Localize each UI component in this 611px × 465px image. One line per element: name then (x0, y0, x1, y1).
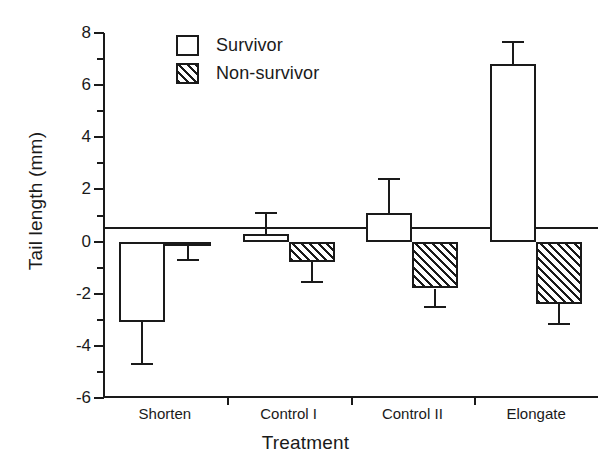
error-bar-stem (265, 213, 267, 234)
bar-non-survivor-elongate (536, 242, 582, 305)
legend-label-non-survivor: Non-survivor (216, 63, 319, 84)
error-bar-cap (548, 323, 570, 325)
y-tick-label: -2 (45, 285, 91, 302)
bar-survivor-control-i (243, 234, 289, 242)
error-bar-cap (177, 259, 199, 261)
y-tick-major (94, 397, 104, 399)
y-tick-major (94, 241, 104, 243)
y-tick-label: -4 (45, 337, 91, 354)
error-bar-stem (388, 179, 390, 213)
y-tick-label: 4 (45, 128, 91, 145)
y-tick-major (94, 84, 104, 86)
bar-non-survivor-control-ii (412, 242, 458, 289)
y-tick-minor (97, 215, 104, 217)
y-tick-minor (97, 162, 104, 164)
bar-survivor-shorten (119, 242, 165, 323)
y-tick-label: 6 (45, 76, 91, 93)
error-bar-stem (141, 322, 143, 364)
error-bar-stem (187, 243, 189, 260)
y-tick-label: -6 (45, 389, 91, 406)
error-bar-stem (311, 262, 313, 282)
legend-item-non-survivor: Non-survivor (176, 59, 319, 87)
y-axis-title: Tail length (mm) (25, 91, 47, 311)
y-tick-minor (97, 267, 104, 269)
x-tick-label: Shorten (103, 405, 227, 422)
error-bar-stem (512, 42, 514, 64)
y-tick-minor (97, 319, 104, 321)
legend-item-survivor: Survivor (176, 31, 319, 59)
error-bar-cap (378, 178, 400, 180)
x-tick (227, 396, 229, 405)
error-bar-cap (301, 281, 323, 283)
error-bar-cap (424, 306, 446, 308)
bar-survivor-control-ii (366, 213, 412, 242)
chart-figure: Tail length (mm) Treatment 86420-2-4-6 S… (0, 0, 611, 465)
error-bar-cap (131, 363, 153, 365)
bar-survivor-elongate (490, 64, 536, 241)
y-tick-major (94, 136, 104, 138)
chart-legend: Survivor Non-survivor (176, 31, 319, 87)
error-bar-stem (434, 289, 436, 307)
x-tick (351, 396, 353, 405)
y-tick-label: 2 (45, 180, 91, 197)
plot-area: 86420-2-4-6 ShortenControl IControl IIEl… (103, 33, 598, 398)
error-bar-cap (502, 41, 524, 43)
y-tick-minor (97, 58, 104, 60)
x-tick (474, 396, 476, 405)
y-tick-major (94, 32, 104, 34)
x-axis-title: Treatment (0, 432, 611, 454)
x-tick-label: Control I (227, 405, 351, 422)
y-tick-major (94, 188, 104, 190)
y-tick-major (94, 293, 104, 295)
y-tick-major (94, 345, 104, 347)
error-bar-stem (558, 304, 560, 324)
y-tick-label: 8 (45, 24, 91, 41)
y-tick-minor (97, 371, 104, 373)
bar-non-survivor-control-i (289, 242, 335, 263)
legend-swatch-hatched-icon (176, 63, 199, 84)
legend-swatch-open-icon (176, 35, 199, 56)
x-tick-label: Control II (351, 405, 475, 422)
x-tick-label: Elongate (474, 405, 598, 422)
error-bar-cap (255, 212, 277, 214)
y-tick-label: 0 (45, 233, 91, 250)
y-tick-minor (97, 110, 104, 112)
legend-label-survivor: Survivor (216, 35, 283, 56)
